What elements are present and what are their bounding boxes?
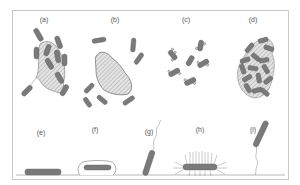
panel-e-cell <box>25 169 61 175</box>
panel-label-i: (i) <box>250 126 256 133</box>
panel-label-c: (c) <box>182 16 190 23</box>
panel-label-e: (e) <box>37 129 46 136</box>
panel-f-illustration <box>78 161 116 176</box>
panel-label-h: (h) <box>196 126 205 133</box>
panel-label-a: (a) <box>40 16 49 23</box>
panel-d-illustration <box>237 37 274 98</box>
panel-label-g: (g) <box>145 128 154 135</box>
panel-h-illustration <box>173 151 227 176</box>
diagram-canvas <box>0 0 300 185</box>
panel-a-illustration <box>21 27 70 97</box>
panel-label-b: (b) <box>111 16 120 23</box>
panel-label-f: (f) <box>92 126 99 133</box>
panel-label-d: (d) <box>249 16 258 23</box>
panel-c-illustration <box>165 39 210 88</box>
panel-b-illustration <box>82 37 144 108</box>
